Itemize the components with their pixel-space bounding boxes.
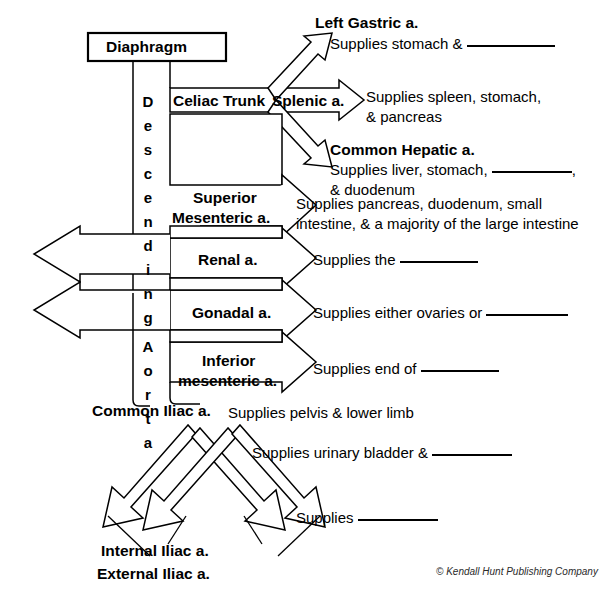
- vletter-a1: A: [139, 338, 157, 355]
- common-hepatic-blank: [492, 171, 572, 173]
- diaphragm-label: Diaphragm: [106, 38, 187, 56]
- renal-label: Renal a.: [198, 251, 257, 269]
- vletter-a2: a: [139, 434, 157, 451]
- gonadal-description: Supplies either ovaries or: [313, 304, 568, 322]
- inferior-mesenteric-label-line2: mesenteric a.: [178, 372, 277, 390]
- vletter-s: s: [139, 141, 157, 158]
- renal-blank: [400, 261, 478, 263]
- inferior-mesenteric-box: [170, 330, 282, 342]
- vletter-n1: n: [139, 213, 157, 230]
- external-iliac-description: Supplies: [296, 509, 438, 527]
- superior-mesenteric-label-line2: Mesenteric a.: [172, 209, 270, 227]
- common-hepatic-desc-line1: Supplies liver, stomach, ,: [330, 160, 576, 180]
- common-hepatic-label: Common Hepatic a.: [330, 141, 475, 159]
- vletter-d2: d: [139, 237, 157, 254]
- internal-iliac-label: Internal Iliac a.: [101, 542, 209, 560]
- superior-mesenteric-description: Supplies pancreas, duodenum, small intes…: [296, 194, 579, 233]
- internal-iliac-desc-text: Supplies urinary bladder &: [252, 444, 428, 461]
- external-iliac-blank: [358, 519, 438, 521]
- external-iliac-desc-text: Supplies: [296, 509, 354, 526]
- vletter-n2: n: [139, 285, 157, 302]
- superior-mesenteric-upper-box: [170, 114, 282, 185]
- gonadal-label: Gonadal a.: [192, 304, 271, 322]
- internal-iliac-blank: [432, 454, 512, 456]
- gonadal-desc-text: Supplies either ovaries or: [313, 304, 482, 321]
- renal-box: [170, 226, 282, 238]
- external-iliac-label: External Iliac a.: [97, 565, 210, 583]
- common-iliac-label: Common Iliac a.: [92, 402, 211, 420]
- splenic-label: Splenic a.: [272, 92, 344, 110]
- ima-blank: [421, 370, 499, 372]
- ima-desc-text: Supplies end of: [313, 360, 416, 377]
- common-hepatic-desc-pre: Supplies liver, stomach,: [330, 161, 488, 178]
- sma-desc-line1: Supplies pancreas, duodenum, small: [296, 194, 579, 214]
- vletter-r: r: [139, 386, 157, 403]
- sma-desc-line2: intestine, & a majority of the large int…: [296, 214, 579, 234]
- renal-description: Supplies the: [313, 251, 478, 269]
- renal-desc-text: Supplies the: [313, 251, 396, 268]
- vletter-g: g: [139, 309, 157, 326]
- aorta-branch-diagram: Diaphragm D e s c e n d i n g A o r t a …: [0, 0, 605, 609]
- left-gastric-label: Left Gastric a.: [315, 14, 418, 32]
- left-gastric-blank: [467, 45, 555, 47]
- inferior-mesenteric-label-line1: Inferior: [202, 352, 255, 370]
- splenic-desc-line1: Supplies spleen, stomach,: [366, 87, 541, 107]
- common-iliac-description: Supplies pelvis & lower limb: [228, 404, 414, 422]
- vletter-e1: e: [139, 117, 157, 134]
- vletter-i: i: [139, 261, 157, 278]
- gonadal-blank: [486, 314, 568, 316]
- vletter-o: o: [139, 362, 157, 379]
- vletter-c: c: [139, 165, 157, 182]
- inferior-mesenteric-description: Supplies end of: [313, 360, 499, 378]
- superior-mesenteric-label-line1: Superior: [193, 189, 257, 207]
- internal-iliac-description: Supplies urinary bladder &: [252, 444, 512, 462]
- common-hepatic-desc-post: ,: [572, 161, 576, 178]
- copyright-notice: © Kendall Hunt Publishing Company: [436, 566, 598, 577]
- left-gastric-description: Supplies stomach &: [330, 35, 555, 53]
- left-gastric-desc-text: Supplies stomach &: [330, 35, 463, 52]
- gonadal-box: [170, 278, 282, 290]
- vletter-d: D: [139, 93, 157, 110]
- celiac-trunk-label: Celiac Trunk: [173, 92, 265, 110]
- splenic-desc-line2: & pancreas: [366, 107, 541, 127]
- splenic-description: Supplies spleen, stomach, & pancreas: [366, 87, 541, 126]
- vletter-e2: e: [139, 189, 157, 206]
